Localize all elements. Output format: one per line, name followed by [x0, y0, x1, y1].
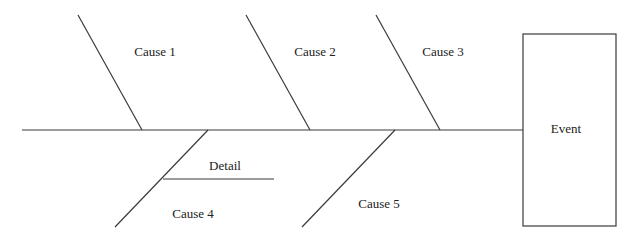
cause-2-label: Cause 2: [294, 44, 336, 59]
cause-4-detail-label: Detail: [209, 158, 241, 173]
effect-label: Event: [551, 121, 582, 136]
cause-3: Cause 3: [376, 15, 464, 130]
cause-1: Cause 1: [78, 15, 176, 130]
cause-2-bone: [246, 15, 310, 130]
cause-4-label: Cause 4: [172, 206, 214, 221]
cause-3-bone: [376, 15, 440, 130]
cause-1-label: Cause 1: [134, 44, 176, 59]
cause-2: Cause 2: [246, 15, 336, 130]
cause-5-bone: [302, 130, 395, 227]
cause-3-label: Cause 3: [422, 44, 464, 59]
effect-box: Event: [523, 34, 616, 226]
cause-4: Detail Cause 4: [115, 130, 274, 227]
cause-5-label: Cause 5: [358, 196, 400, 211]
fishbone-diagram: Event Cause 1 Cause 2 Cause 3 Detail Cau…: [0, 0, 636, 238]
cause-5: Cause 5: [302, 130, 400, 227]
cause-1-bone: [78, 15, 142, 130]
